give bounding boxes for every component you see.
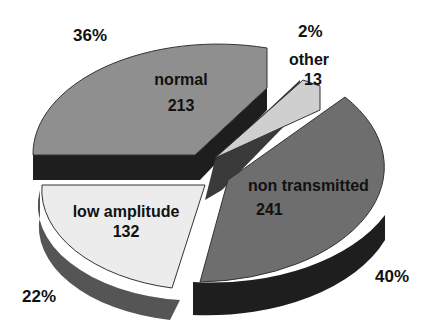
label-normal: normal 213 [136,70,226,116]
pct-normal: 36% [73,26,107,46]
label-normal-name: normal [136,70,226,90]
label-low-amplitude-name: low amplitude [56,202,196,222]
label-normal-value: 213 [136,96,226,116]
label-low-amplitude-value: 132 [56,222,196,242]
pct-other: 2% [298,22,323,42]
label-non-transmitted-name: non transmitted [248,176,398,196]
label-non-transmitted: non transmitted 241 [248,176,398,220]
pct-low-amplitude: 22% [22,287,56,307]
label-other: other 13 [284,50,334,90]
pct-non-transmitted: 40% [375,267,409,287]
label-low-amplitude: low amplitude 132 [56,202,196,242]
label-non-transmitted-value: 241 [256,200,398,220]
label-other-name: other [284,50,334,70]
label-other-value: 13 [292,70,334,90]
